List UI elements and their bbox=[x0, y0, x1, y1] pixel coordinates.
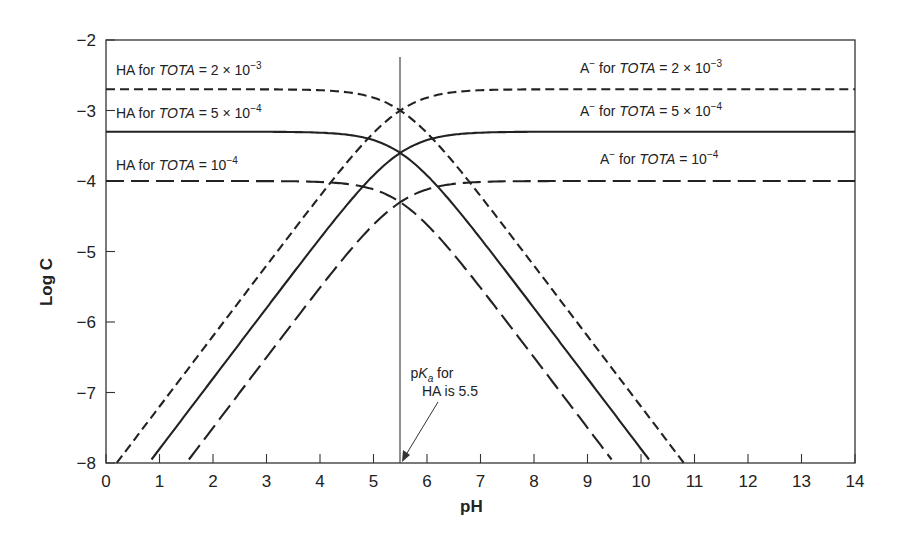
x-tick-label: 9 bbox=[583, 472, 592, 491]
label-ha-1e-4: HA for TOTA = 10−4 bbox=[116, 155, 238, 173]
y-tick-label: −3 bbox=[77, 102, 96, 121]
x-tick-label: 10 bbox=[632, 472, 651, 491]
curve-a-short-dash bbox=[117, 89, 855, 463]
y-tick-label: −7 bbox=[77, 384, 96, 403]
label-ha-2e-3: HA for TOTA = 2 × 10−3 bbox=[116, 60, 262, 78]
label-a-1e-4: A− for TOTA = 10−4 bbox=[600, 149, 719, 167]
pka-annotation-line1: pKa for bbox=[411, 365, 454, 384]
x-tick-label: 8 bbox=[529, 472, 538, 491]
pka-arrow bbox=[404, 402, 438, 458]
x-axis-label: pH bbox=[460, 497, 483, 516]
x-tick-label: 11 bbox=[686, 472, 704, 491]
x-tick-label: 2 bbox=[208, 472, 217, 491]
y-tick-label: −5 bbox=[77, 243, 96, 262]
x-tick-label: 4 bbox=[315, 472, 324, 491]
x-tick-labels: 01234567891011121314 bbox=[101, 472, 864, 491]
curve-ha-long-dash bbox=[106, 181, 612, 460]
plot-frame bbox=[106, 40, 855, 463]
axis-ticks bbox=[106, 40, 855, 463]
y-axis-label: Log C bbox=[37, 258, 56, 306]
x-tick-label: 7 bbox=[476, 472, 485, 491]
y-tick-labels: −2−3−4−5−6−7−8 bbox=[77, 31, 96, 473]
label-ha-5e-4: HA for TOTA = 5 × 10−4 bbox=[116, 103, 262, 121]
x-tick-label: 5 bbox=[369, 472, 378, 491]
x-tick-label: 13 bbox=[792, 472, 811, 491]
x-tick-label: 1 bbox=[155, 472, 164, 491]
pka-annotation-line2: HA is 5.5 bbox=[422, 383, 478, 399]
x-tick-label: 12 bbox=[739, 472, 758, 491]
x-tick-label: 6 bbox=[422, 472, 431, 491]
x-tick-label: 14 bbox=[846, 472, 865, 491]
label-a-2e-3: A− for TOTA = 2 × 10−3 bbox=[580, 58, 722, 76]
y-tick-label: −8 bbox=[77, 454, 96, 473]
y-tick-label: −6 bbox=[77, 313, 96, 332]
arrow-head-icon bbox=[402, 450, 410, 462]
log-c-ph-chart: 01234567891011121314 −2−3−4−5−6−7−8 pH L… bbox=[0, 0, 897, 544]
y-tick-label: −4 bbox=[77, 172, 96, 191]
x-tick-label: 3 bbox=[262, 472, 271, 491]
label-a-5e-4: A− for TOTA = 5 × 10−4 bbox=[580, 101, 722, 119]
y-tick-label: −2 bbox=[77, 31, 96, 50]
curve-a-long-dash bbox=[189, 181, 855, 460]
curves bbox=[106, 89, 855, 463]
x-tick-label: 0 bbox=[101, 472, 110, 491]
